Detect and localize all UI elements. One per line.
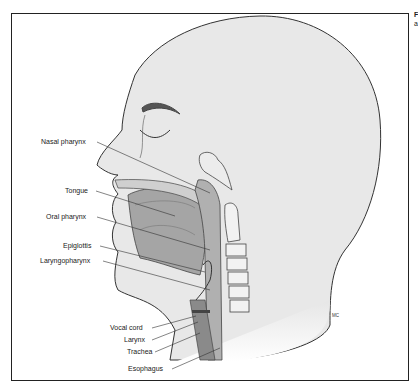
head-neck-sagittal-illustration	[0, 0, 418, 391]
label-esophagus: Esophagus	[128, 365, 163, 373]
caption-fragment-bold: F	[414, 11, 418, 18]
label-nasal-pharynx: Nasal pharynx	[41, 138, 86, 146]
label-larynx: Larynx	[124, 336, 145, 344]
label-laryngopharynx: Laryngopharynx	[40, 257, 90, 265]
caption-fragment: F a	[414, 10, 418, 28]
label-tongue: Tongue	[65, 187, 88, 195]
label-oral-pharynx: Oral pharynx	[46, 213, 86, 221]
artist-signature: MC	[332, 313, 339, 318]
label-trachea: Trachea	[127, 348, 152, 356]
label-epiglottis: Epiglottis	[63, 242, 91, 250]
caption-fragment-regular: a	[414, 20, 418, 27]
label-vocal-cord: Vocal cord	[110, 324, 143, 332]
